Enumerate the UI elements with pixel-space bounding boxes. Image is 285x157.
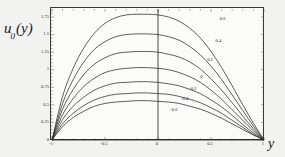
curve-label--0.6: -0.6 bbox=[170, 106, 177, 111]
y-tick-label: 1.25 bbox=[31, 49, 49, 54]
curve-label-0.4: 0.4 bbox=[216, 37, 222, 42]
y-tick-label: 1 bbox=[31, 66, 49, 71]
y-tick-label: 0.75 bbox=[31, 84, 49, 89]
curve-label--0.4: -0.4 bbox=[181, 96, 188, 101]
curve-label-0.6: 0.6 bbox=[220, 16, 226, 21]
y-tick-label: 0 bbox=[31, 137, 49, 142]
x-tick-label-group: -1-0.500.51 bbox=[50, 141, 264, 151]
x-axis-title: y bbox=[268, 136, 274, 152]
y-tick-label: 1.75 bbox=[31, 14, 49, 19]
y-axis-title-subscript: 0 bbox=[11, 31, 16, 41]
y-tick-label: 1.5 bbox=[31, 31, 49, 36]
x-tick-label: 0.5 bbox=[207, 141, 213, 146]
x-tick-label: -0.5 bbox=[100, 141, 107, 146]
y-tick-label: 0.5 bbox=[31, 102, 49, 107]
y-axis-title: u0(y) bbox=[4, 20, 33, 39]
curve-label-0.2: 0.2 bbox=[207, 56, 213, 61]
curve-label-0: 0 bbox=[200, 73, 202, 78]
x-tick-label: -1 bbox=[49, 141, 53, 146]
curve-label--0.2: -0.2 bbox=[189, 86, 196, 91]
y-tick-label: 0.25 bbox=[31, 119, 49, 124]
x-tick-label: 1 bbox=[262, 141, 264, 146]
x-tick-label: 0 bbox=[156, 141, 158, 146]
curve-label-group: 0.60.40.20-0.2-0.4-0.6 bbox=[50, 7, 264, 140]
figure-root: u0(y) y 00.250.50.7511.251.51.75 -1-0.50… bbox=[0, 0, 285, 157]
y-tick-label-group: 00.250.50.7511.251.51.75 bbox=[30, 7, 49, 140]
